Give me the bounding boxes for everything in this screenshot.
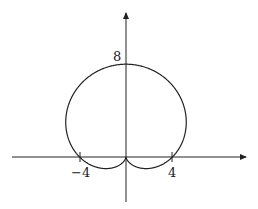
x-tick-label-pos4: 4 [168, 165, 176, 180]
y-tick-label-8: 8 [113, 49, 121, 64]
polar-plot: 8 −4 4 [0, 0, 258, 209]
x-tick-label-neg4: −4 [71, 165, 90, 180]
